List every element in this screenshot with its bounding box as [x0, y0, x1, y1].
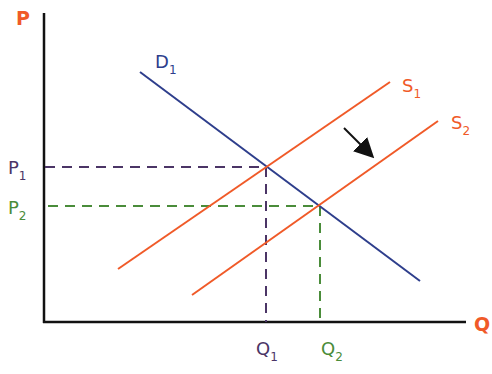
q1-label: Q1	[256, 338, 278, 364]
s2-label: S2	[451, 112, 470, 138]
supply-demand-diagram: P Q D1 S1 S2 P1 P2 Q1 Q2	[0, 0, 492, 374]
y-axis-label: P	[16, 7, 30, 29]
p2-label: P2	[8, 197, 27, 223]
x-axis-label: Q	[474, 313, 490, 335]
supply-curve-s1	[118, 82, 390, 269]
q2-label: Q2	[321, 338, 343, 364]
s1-label: S1	[402, 75, 421, 101]
p1-label: P1	[8, 157, 27, 183]
shift-arrow-icon	[344, 128, 370, 154]
d1-label: D1	[155, 51, 177, 77]
demand-curve-d1	[140, 72, 420, 281]
supply-curve-s2	[192, 121, 438, 295]
